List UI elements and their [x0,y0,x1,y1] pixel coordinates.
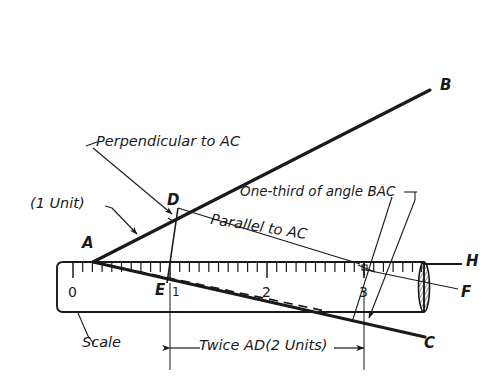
point-label-c: C [424,336,435,351]
scale-number-0: 0 [68,285,77,299]
scale-number-3: 3 [359,285,368,299]
point-label-b: B [440,78,451,93]
leader-f [366,270,458,289]
trisection-diagram: B A D E C H F 0 1 2 3 Perpendicular to A… [0,0,498,378]
dashed-construction-line [93,262,330,312]
annotation-one-third: One-third of angle BAC [240,185,395,199]
scale-number-2: 2 [262,285,271,299]
point-label-a: A [82,236,94,251]
annotation-scale: Scale [82,335,121,350]
point-label-d: D [167,193,179,208]
angle-mark-on-ruler [358,262,375,276]
leader-one-unit [105,206,137,234]
segment-de-perpendicular [167,208,178,283]
point-label-f: F [461,285,471,300]
point-label-h: H [466,254,479,269]
point-label-e: E [155,283,165,298]
leader-perpendicular [86,142,172,214]
annotation-one-unit: (1 Unit) [30,196,85,211]
annotation-perpendicular: Perpendicular to AC [96,134,240,149]
leader-one-third [352,192,417,322]
scale-number-1: 1 [172,286,180,298]
annotation-dimension: Twice AD(2 Units) [199,338,327,353]
